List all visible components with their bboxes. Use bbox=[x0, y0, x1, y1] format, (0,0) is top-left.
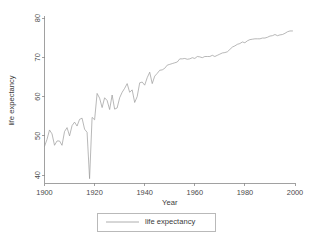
y-tick-label: 40 bbox=[33, 171, 42, 179]
y-axis-ticks: 4050607080 bbox=[33, 14, 44, 179]
legend-label-life-expectancy: life expectancy bbox=[145, 217, 195, 226]
life-expectancy-line-chart: 4050607080 190019201940196019802000 Year… bbox=[0, 0, 312, 244]
x-tick-label: 1980 bbox=[237, 188, 253, 197]
x-tick-label: 1900 bbox=[36, 188, 52, 197]
x-tick-label: 2000 bbox=[287, 188, 303, 197]
x-axis-title: Year bbox=[162, 198, 178, 207]
y-tick-label: 50 bbox=[33, 132, 42, 140]
y-tick-label: 70 bbox=[33, 53, 42, 61]
legend: life expectancy bbox=[97, 213, 215, 231]
axis-group bbox=[45, 16, 296, 183]
y-tick-label: 60 bbox=[33, 92, 42, 100]
x-tick-label: 1940 bbox=[136, 188, 152, 197]
data-series-group bbox=[45, 31, 293, 179]
chart-container: 4050607080 190019201940196019802000 Year… bbox=[0, 0, 312, 244]
y-axis-title: life expectancy bbox=[7, 75, 16, 125]
y-tick-label: 80 bbox=[33, 14, 42, 22]
x-tick-label: 1960 bbox=[187, 188, 203, 197]
series-line-life-expectancy bbox=[45, 31, 293, 179]
x-tick-label: 1920 bbox=[86, 188, 102, 197]
x-axis-ticks: 190019201940196019802000 bbox=[36, 183, 303, 197]
